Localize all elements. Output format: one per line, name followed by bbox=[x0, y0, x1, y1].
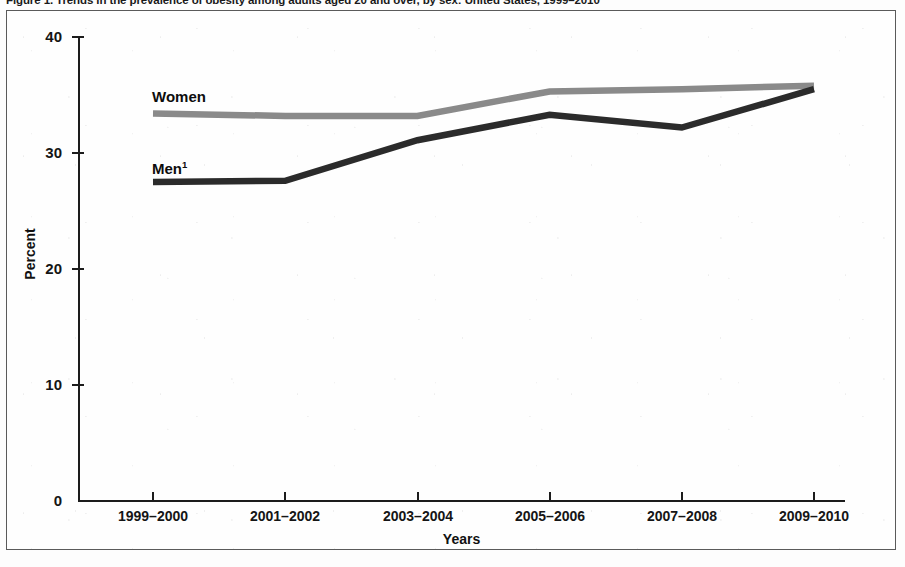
series-label-women: Women bbox=[152, 88, 206, 105]
series-label-men-text: Men bbox=[152, 160, 182, 177]
footnote-marker-1: 1 bbox=[182, 159, 187, 170]
series-line-women bbox=[153, 86, 814, 116]
series-label-men: Men1 bbox=[152, 159, 187, 177]
figure-page: Figure 1. Trends in the prevalence of ob… bbox=[0, 0, 905, 567]
plot-area: 40 30 20 10 0 1999–2000 2001–2002 2003–2… bbox=[0, 0, 905, 567]
series-container bbox=[0, 0, 905, 567]
